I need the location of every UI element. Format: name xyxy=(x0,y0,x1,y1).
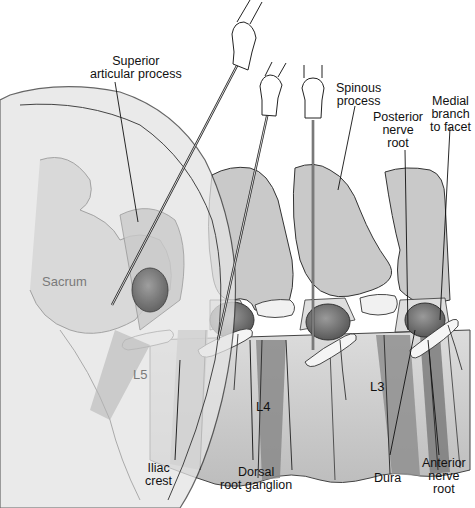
label-superior-articular-process: Superior articular process xyxy=(90,55,182,81)
lumbar-spine-illustration xyxy=(0,0,475,508)
label-sacrum: Sacrum xyxy=(42,275,87,288)
label-anterior-nerve-root: Anterior nerve root xyxy=(422,457,466,496)
label-medial-branch: Medial branch to facet xyxy=(430,95,471,134)
label-posterior-nerve-root: Posterior nerve root xyxy=(373,111,423,150)
l5-ganglion xyxy=(132,268,168,312)
label-l4: L4 xyxy=(256,400,270,413)
label-dura: Dura xyxy=(374,472,401,485)
label-l3: L3 xyxy=(370,380,384,393)
sacrum-pelvis xyxy=(0,87,235,508)
label-dorsal-root-ganglion: Dorsal root ganglion xyxy=(220,466,292,492)
label-l5: L5 xyxy=(133,368,147,381)
label-spinous-process: Spinous process xyxy=(336,82,381,108)
label-iliac-crest: Iliac crest xyxy=(145,462,172,488)
